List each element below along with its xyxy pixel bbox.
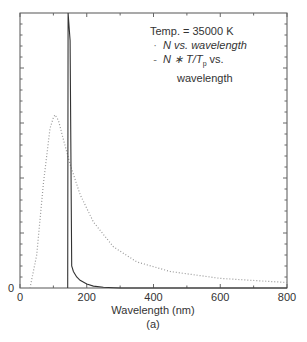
- figure-caption: (a): [146, 318, 159, 330]
- x-tick-label: 0: [17, 291, 23, 303]
- legend-item-n-t-tp: - N ∗ T/Tp vs.: [150, 52, 247, 71]
- x-tick-label: 200: [78, 291, 96, 303]
- dotted-line-marker-icon: -: [150, 52, 160, 66]
- legend: Temp. = 35000 K · N vs. wavelength - N ∗…: [150, 24, 247, 85]
- series-n-times-t-over-tp: [30, 115, 287, 288]
- legend-vs: vs.: [207, 53, 224, 65]
- x-tick-label: 600: [211, 291, 229, 303]
- solid-line-marker-icon: ·: [150, 38, 160, 52]
- legend-item-n: · N vs. wavelength: [150, 38, 247, 52]
- legend-item-wavelength: wavelength: [150, 71, 247, 85]
- legend-label-n-t: N ∗ T/T: [163, 53, 203, 65]
- x-tick-label: 800: [278, 291, 296, 303]
- x-tick-label: 400: [144, 291, 162, 303]
- legend-label-n: N vs. wavelength: [163, 39, 247, 51]
- y-tick-label-0: 0: [8, 282, 14, 294]
- legend-temperature: Temp. = 35000 K: [150, 24, 247, 38]
- x-axis-title: Wavelength (nm): [111, 304, 194, 316]
